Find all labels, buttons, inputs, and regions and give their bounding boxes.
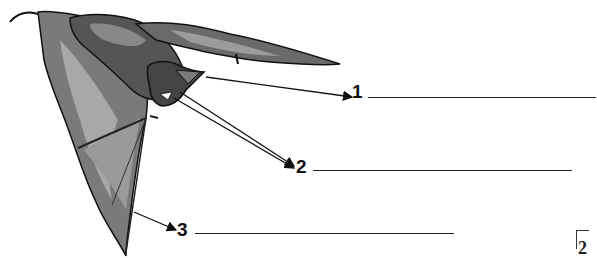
bat-illustration	[0, 0, 597, 258]
pointer-2b	[174, 98, 294, 168]
pointer-1	[206, 77, 352, 97]
pointer-2a	[180, 92, 294, 166]
label-number-1: 1	[352, 82, 363, 101]
answer-line-1[interactable]	[368, 97, 596, 98]
label-number-2: 2	[296, 157, 307, 176]
label-number-3: 3	[177, 220, 188, 239]
answer-line-2[interactable]	[313, 170, 572, 171]
pointer-3	[134, 212, 176, 230]
corner-page-mark: 2	[574, 228, 596, 258]
answer-line-3[interactable]	[195, 233, 454, 234]
